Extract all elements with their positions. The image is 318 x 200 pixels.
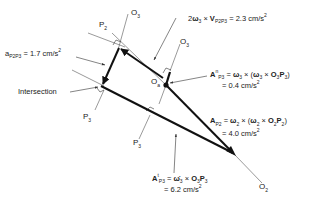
label-ap2: AP2 = ω2 × (ω2 × O2P2)	[210, 117, 287, 127]
label-coriolis: 2ω3 × VP2P3 = 2.3 cm/s2	[188, 13, 267, 24]
label-p3-mid: P3	[133, 139, 141, 149]
label-o3-top: O3	[131, 9, 140, 19]
label-normal-p3-value: = 0.4 cm/s2	[222, 80, 260, 89]
label-o2: O2	[259, 183, 268, 193]
point-oa	[163, 82, 168, 87]
label-o3-right: O3	[180, 38, 189, 48]
label-p2: P2	[99, 21, 107, 31]
label-ap2-value: = 4.0 cm/s2	[222, 128, 260, 137]
vector-lines	[101, 48, 236, 156]
label-oa: Oa	[151, 78, 160, 88]
label-normal-p3: AnP3 = ω3 × (ω3 × O3P3)	[210, 69, 290, 80]
ap2p3-vector	[103, 48, 119, 84]
coriolis-vector	[121, 49, 163, 78]
label-ap2p3: aP2P3 = 1.7 cm/s2	[5, 48, 61, 59]
label-p3-left: P3	[83, 113, 91, 123]
acceleration-polygon-diagram	[0, 0, 318, 200]
construction-lines	[72, 14, 262, 183]
label-tangential-p3-value: = 6.2 cm/s2	[164, 184, 202, 193]
label-intersection: Intersection	[18, 88, 57, 96]
